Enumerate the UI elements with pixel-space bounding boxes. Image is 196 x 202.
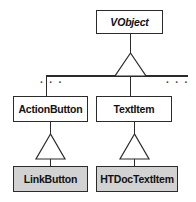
- class-diagram: VObject ActionButton TextItem LinkButton…: [0, 0, 196, 202]
- class-node-action-button-label: ActionButton: [18, 103, 82, 115]
- class-node-link-button[interactable]: LinkButton: [13, 166, 88, 192]
- class-node-vobject[interactable]: VObject: [96, 10, 163, 34]
- generalization-arrowhead-text-item: [120, 134, 149, 159]
- generalization-arrowhead-action-button: [36, 134, 65, 159]
- class-node-htdoc-text-item-label: HTDocTextItem: [100, 173, 174, 185]
- class-node-vobject-label: VObject: [110, 16, 148, 28]
- class-node-text-item[interactable]: TextItem: [96, 96, 172, 122]
- ellipsis-left: · · ·: [40, 78, 64, 88]
- class-node-htdoc-text-item[interactable]: HTDocTextItem: [96, 166, 178, 192]
- ellipsis-right: · · ·: [166, 78, 190, 88]
- class-node-action-button[interactable]: ActionButton: [13, 96, 88, 122]
- class-node-link-button-label: LinkButton: [24, 173, 77, 185]
- class-node-text-item-label: TextItem: [114, 103, 155, 115]
- generalization-arrowhead-vobject: [115, 53, 146, 76]
